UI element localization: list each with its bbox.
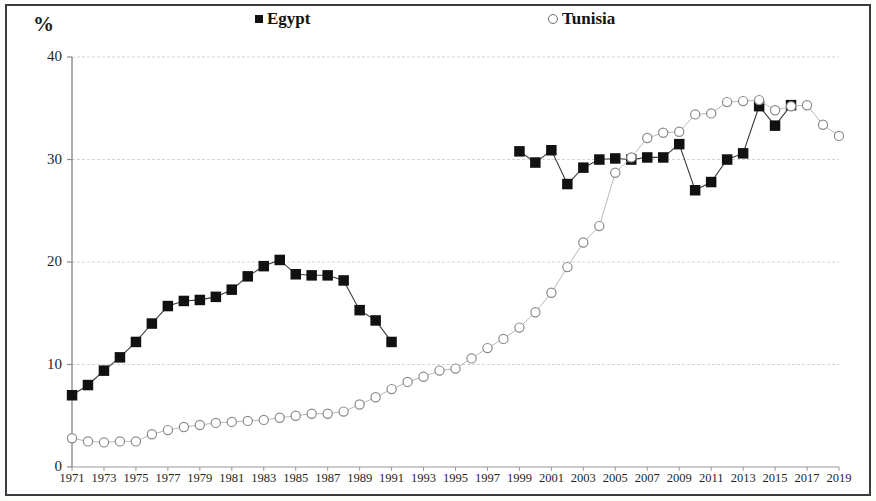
- data-point-egypt: [227, 284, 238, 295]
- data-point-egypt: [67, 390, 78, 401]
- data-point-tunisia: [515, 323, 524, 332]
- data-point-tunisia: [802, 101, 811, 110]
- data-point-tunisia: [67, 434, 76, 443]
- data-point-egypt: [147, 318, 158, 329]
- data-point-tunisia: [755, 96, 764, 105]
- data-point-tunisia: [787, 102, 796, 111]
- data-point-egypt: [770, 120, 781, 130]
- data-point-egypt: [211, 292, 222, 303]
- data-point-tunisia: [435, 366, 444, 375]
- data-point-tunisia: [195, 420, 204, 429]
- data-point-egypt: [131, 337, 142, 348]
- data-point-egypt: [291, 269, 302, 280]
- series-line-tunisia: [72, 100, 839, 442]
- data-point-egypt: [642, 152, 653, 163]
- data-point-tunisia: [627, 153, 636, 162]
- data-point-egypt: [275, 255, 286, 266]
- data-point-tunisia: [595, 222, 604, 231]
- data-point-tunisia: [227, 417, 236, 426]
- data-point-tunisia: [659, 128, 668, 137]
- data-point-tunisia: [99, 438, 108, 447]
- data-point-egypt: [195, 295, 206, 306]
- data-point-egypt: [658, 152, 669, 163]
- data-point-egypt: [514, 146, 525, 157]
- data-point-tunisia: [211, 418, 220, 427]
- data-point-tunisia: [467, 354, 476, 363]
- data-point-tunisia: [675, 127, 684, 136]
- data-point-tunisia: [451, 364, 460, 373]
- data-point-egypt: [722, 154, 733, 165]
- data-point-egypt: [370, 315, 381, 326]
- data-point-tunisia: [547, 288, 556, 297]
- data-point-tunisia: [818, 120, 827, 129]
- data-point-tunisia: [483, 344, 492, 353]
- data-point-tunisia: [739, 97, 748, 106]
- data-point-egypt: [83, 380, 94, 391]
- data-point-egypt: [594, 154, 605, 165]
- plot-area: [0, 0, 876, 501]
- data-point-tunisia: [403, 377, 412, 386]
- data-point-tunisia: [323, 409, 332, 418]
- data-point-tunisia: [291, 411, 300, 420]
- data-point-tunisia: [131, 437, 140, 446]
- data-point-tunisia: [531, 308, 540, 317]
- data-point-egypt: [690, 185, 701, 196]
- data-point-egypt: [530, 157, 541, 168]
- data-point-tunisia: [579, 238, 588, 247]
- data-point-egypt: [306, 270, 317, 281]
- data-point-egypt: [259, 261, 270, 272]
- chart-figure: % Egypt Tunisia 010203040197119731975197…: [0, 0, 876, 501]
- data-point-tunisia: [611, 168, 620, 177]
- data-point-tunisia: [355, 400, 364, 409]
- data-point-tunisia: [834, 131, 843, 140]
- data-point-egypt: [738, 148, 749, 159]
- data-point-tunisia: [339, 407, 348, 416]
- data-point-egypt: [179, 296, 190, 307]
- data-point-egypt: [115, 352, 126, 363]
- data-point-tunisia: [387, 385, 396, 394]
- series-line-egypt: [519, 105, 791, 190]
- data-point-tunisia: [563, 263, 572, 272]
- data-point-tunisia: [499, 334, 508, 343]
- data-point-egypt: [243, 271, 254, 282]
- data-point-tunisia: [83, 437, 92, 446]
- x-tick-label: 2019: [819, 471, 859, 486]
- data-point-egypt: [546, 145, 557, 156]
- data-point-egypt: [322, 270, 333, 281]
- data-point-egypt: [578, 162, 589, 173]
- data-point-tunisia: [259, 415, 268, 424]
- data-point-tunisia: [707, 109, 716, 118]
- data-point-tunisia: [307, 409, 316, 418]
- data-point-tunisia: [643, 133, 652, 142]
- data-point-tunisia: [723, 98, 732, 107]
- data-point-egypt: [706, 177, 717, 188]
- data-point-egypt: [610, 153, 621, 164]
- data-point-egypt: [386, 337, 397, 348]
- data-point-tunisia: [115, 437, 124, 446]
- data-point-tunisia: [771, 106, 780, 115]
- data-point-tunisia: [147, 430, 156, 439]
- data-point-tunisia: [371, 393, 380, 402]
- data-point-egypt: [354, 305, 365, 316]
- data-point-tunisia: [163, 426, 172, 435]
- data-point-egypt: [674, 139, 685, 150]
- data-point-tunisia: [179, 422, 188, 431]
- data-point-tunisia: [691, 110, 700, 119]
- y-tick-label: 20: [28, 253, 62, 270]
- data-point-tunisia: [243, 416, 252, 425]
- y-tick-label: 30: [28, 151, 62, 168]
- y-tick-label: 40: [28, 48, 62, 65]
- data-point-egypt: [163, 301, 174, 312]
- data-point-egypt: [338, 275, 349, 286]
- data-point-tunisia: [419, 372, 428, 381]
- y-tick-label: 10: [28, 356, 62, 373]
- data-point-egypt: [562, 179, 573, 190]
- data-point-egypt: [99, 365, 110, 376]
- data-point-tunisia: [275, 413, 284, 422]
